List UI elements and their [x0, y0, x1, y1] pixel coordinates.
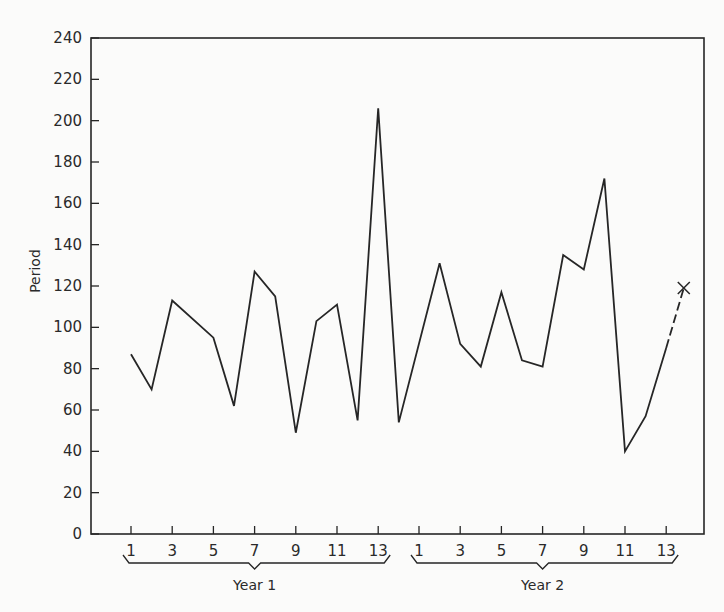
x-tick-label: 5 [209, 542, 219, 560]
data-line [131, 108, 666, 451]
y-axis-title: Period [27, 249, 43, 293]
x-tick-label: 1 [126, 542, 136, 560]
x-tick-label: 3 [167, 542, 177, 560]
x-tick-label: 7 [538, 542, 548, 560]
x-tick-label: 11 [327, 542, 346, 560]
y-tick-label: 160 [53, 194, 82, 212]
y-tick-label: 220 [53, 70, 82, 88]
x-tick-label: 13 [657, 542, 676, 560]
y-tick-label: 120 [53, 277, 82, 295]
y-axis: 020406080100120140160180200220240 [53, 29, 99, 543]
y-tick-label: 40 [63, 442, 82, 460]
y-tick-label: 60 [63, 401, 82, 419]
x-tick-label: 13 [369, 542, 388, 560]
line-chart: 020406080100120140160180200220240Period1… [0, 0, 724, 612]
y-tick-label: 140 [53, 236, 82, 254]
x-axis: 135791113Year 1135791113Year 2 [123, 526, 678, 593]
x-tick-label: 9 [291, 542, 301, 560]
y-tick-label: 240 [53, 29, 82, 47]
x-tick-label: 9 [579, 542, 589, 560]
year-group-label: Year 1 [232, 577, 276, 593]
x-tick-label: 7 [250, 542, 260, 560]
y-tick-label: 100 [53, 318, 82, 336]
series-group [131, 108, 690, 451]
forecast-x-marker-icon [678, 282, 690, 294]
forecast-line [666, 288, 684, 348]
year-group-label: Year 2 [520, 577, 564, 593]
y-tick-label: 20 [63, 484, 82, 502]
x-tick-label: 5 [497, 542, 507, 560]
y-tick-label: 0 [72, 525, 82, 543]
y-tick-label: 80 [63, 360, 82, 378]
y-tick-label: 180 [53, 153, 82, 171]
x-tick-label: 11 [615, 542, 634, 560]
x-tick-label: 1 [414, 542, 424, 560]
y-tick-label: 200 [53, 112, 82, 130]
x-tick-label: 3 [455, 542, 465, 560]
